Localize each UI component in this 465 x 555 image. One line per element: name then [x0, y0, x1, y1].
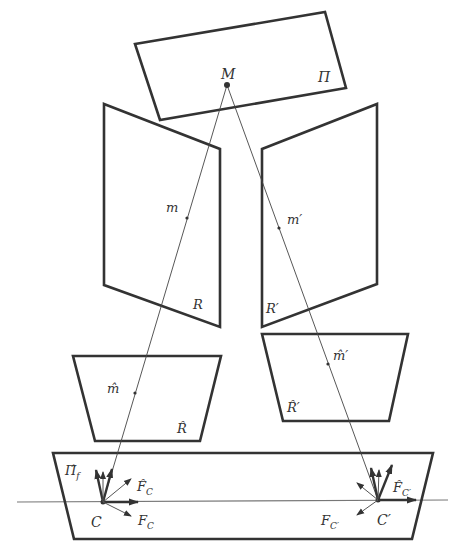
right-image-plane	[262, 104, 377, 327]
point-m-prime	[277, 226, 280, 229]
point-m	[185, 216, 188, 219]
label-F-C: FC	[137, 513, 154, 531]
label-m-hat-prime: m̂′	[333, 348, 348, 363]
world-plane	[135, 12, 346, 120]
label-C: C	[91, 514, 102, 530]
label-R: R	[192, 297, 203, 312]
label-F-hat-C-prime: F̂C′	[392, 480, 411, 498]
left-camera-frame-arrows	[96, 469, 138, 516]
left-projection-ray	[103, 85, 227, 502]
label-F-C-prime: FC′	[320, 513, 339, 531]
point-m-hat	[133, 391, 136, 394]
label-m-prime: m′	[287, 212, 302, 227]
label-R-hat: R̂	[176, 421, 187, 436]
point-M	[224, 82, 230, 88]
label-M: M	[220, 66, 236, 82]
left-image-plane	[104, 104, 220, 327]
label-Pi-hat-f: Π̂f	[64, 463, 81, 481]
left-rectified-plane	[73, 356, 221, 441]
label-F-hat-C: F̂C	[136, 479, 153, 497]
label-Pi: Π	[317, 69, 331, 85]
label-R-prime: R′	[265, 301, 279, 316]
stereo-rectification-diagram: M Π m R m′ R′ m̂ R̂ m̂′ R̂′ Π̂f F̂C FC C…	[0, 0, 465, 555]
point-m-hat-prime	[326, 362, 329, 365]
label-m-hat: m̂	[107, 381, 119, 396]
label-C-prime: C′	[377, 512, 392, 528]
label-R-hat-prime: R̂′	[286, 400, 300, 415]
label-m: m	[166, 200, 178, 215]
